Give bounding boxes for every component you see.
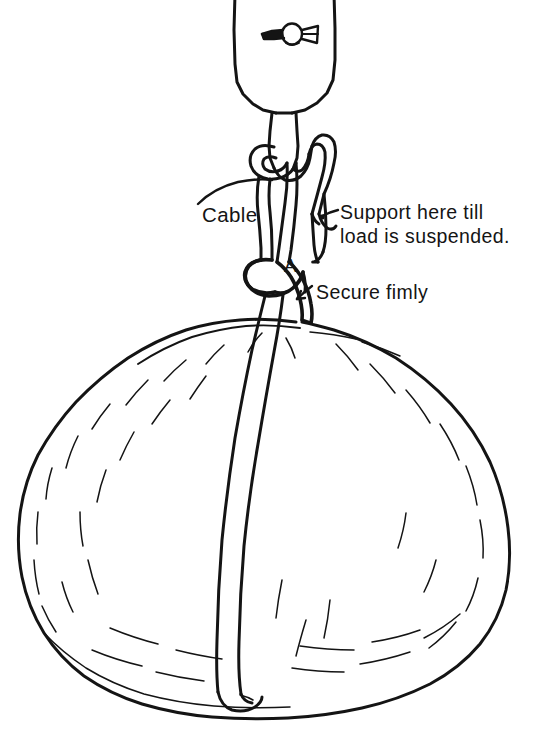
label-cable: Cable [202, 203, 258, 226]
label-secure-group: Secure fimly [297, 281, 428, 303]
label-point-a: A [284, 255, 297, 276]
hook-block [234, 0, 335, 113]
cable-front-run [217, 295, 283, 711]
rigging-diagram-canvas: Cable Support here till load is suspende… [0, 0, 558, 732]
retaining-pin-icon [262, 24, 318, 46]
label-cable-group: Cable [198, 179, 272, 226]
label-secure: Secure fimly [316, 281, 428, 303]
load-outline [18, 319, 509, 718]
rigging-diagram-figure: Cable Support here till load is suspende… [0, 0, 558, 732]
label-support-line1: Support here till [340, 201, 483, 223]
load-texture [34, 332, 483, 681]
label-support-line2: load is suspended. [340, 225, 510, 247]
label-support-group: Support here till load is suspended. [319, 201, 509, 247]
